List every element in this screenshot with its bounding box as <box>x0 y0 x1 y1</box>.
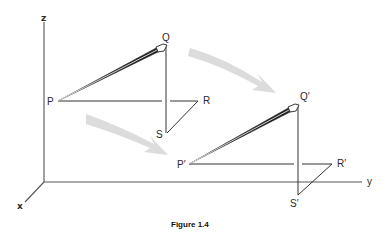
translated-figure <box>189 104 332 195</box>
figure-caption: Figure 1.4 <box>171 220 209 229</box>
y-axis-label: y <box>367 176 372 187</box>
arrowhead-Q <box>156 44 167 52</box>
segment-RS <box>167 101 198 133</box>
x-axis <box>25 182 44 202</box>
figure-diagram: z y x Q P R S Q′ P′ R′ S′ Figure 1.4 <box>0 0 390 233</box>
segment-R'S' <box>298 164 332 195</box>
point-label-P: P <box>47 96 54 107</box>
point-label-S-prime: S′ <box>290 198 299 209</box>
point-label-R-prime: R′ <box>337 158 346 169</box>
arrowhead-Q' <box>288 104 299 112</box>
z-axis-label: z <box>41 13 46 23</box>
original-figure <box>58 44 198 133</box>
point-label-S: S <box>156 129 163 140</box>
point-label-P-prime: P′ <box>177 159 186 170</box>
point-label-Q: Q <box>162 32 170 43</box>
x-axis-label: x <box>17 201 23 211</box>
translation-arrow-upper <box>188 48 276 93</box>
point-label-Q-prime: Q′ <box>300 91 310 102</box>
point-label-R: R <box>203 95 210 106</box>
coordinate-axes <box>25 22 362 202</box>
